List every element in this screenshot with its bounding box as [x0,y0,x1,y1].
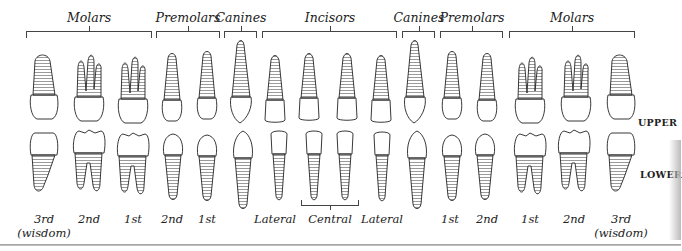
tooth-label-central: Central [308,212,352,226]
tooth-label-1st-molar-right: 1st [521,212,539,226]
tooth-label-1st-premolar-left: 1st [198,212,216,226]
tooth-label-lateral-left: Lateral [254,212,296,226]
central-bracket [301,200,359,206]
tooth-label-2nd-molar-right: 2nd [563,212,585,226]
tooth-label-2nd-premolar-right: 2nd [476,212,498,226]
tooth-label-2nd-premolar-left: 2nd [161,212,183,226]
tooth-label-1st-premolar-right: 1st [441,212,459,226]
tooth-label-2nd-molar-left: 2nd [78,212,100,226]
bottom-rule [0,244,681,246]
tooth-label-3rd-molar-left: 3rd (wisdom) [17,212,71,240]
tooth-label-3rd-molar-right: 3rd (wisdom) [594,212,648,240]
row-label-upper: UPPER [638,117,677,128]
tooth-label-lateral-right: Lateral [361,212,403,226]
tooth-label-1st-molar-left: 1st [124,212,142,226]
page-edge-shadow [669,140,681,240]
